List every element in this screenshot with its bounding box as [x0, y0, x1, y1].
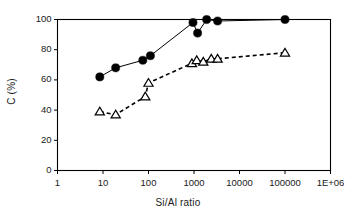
x-axis-title: Si/Al ratio	[0, 197, 356, 208]
y-tick-label-100: 100	[10, 13, 52, 24]
data-point-filled-circles-8	[281, 15, 289, 23]
data-point-open-triangles-9	[280, 48, 289, 56]
data-point-open-triangles-0	[95, 107, 104, 115]
y-tick-label-0: 0	[10, 164, 52, 175]
tick-marks	[54, 20, 331, 175]
data-point-filled-circles-2	[139, 56, 147, 64]
chart-container: C (%) Si/Al ratio 020406080100 110100100…	[0, 0, 356, 222]
data-point-filled-circles-7	[213, 17, 221, 25]
data-point-open-triangles-1	[111, 110, 120, 118]
data-point-open-triangles-2	[141, 92, 150, 100]
data-point-filled-circles-0	[96, 73, 104, 81]
x-tick-label-1: 1	[33, 177, 83, 188]
data-point-filled-circles-6	[203, 15, 211, 23]
data-point-open-triangles-3	[144, 79, 153, 87]
data-point-filled-circles-1	[112, 64, 120, 72]
y-tick-label-40: 40	[10, 104, 52, 115]
y-tick-label-20: 20	[10, 134, 52, 145]
y-tick-label-80: 80	[10, 43, 52, 54]
data-point-filled-circles-4	[189, 18, 197, 26]
x-tick-label-100: 100	[124, 177, 174, 188]
data-point-filled-circles-3	[146, 52, 154, 60]
data-point-filled-circles-5	[194, 29, 202, 37]
x-tick-label-10000: 10000	[215, 177, 265, 188]
y-tick-label-60: 60	[10, 73, 52, 84]
plot-area	[0, 0, 356, 222]
x-tick-label-1000: 1000	[169, 177, 219, 188]
series-markers	[95, 15, 289, 118]
x-tick-label-1000000: 1E+06	[306, 177, 356, 188]
x-tick-label-10: 10	[78, 177, 128, 188]
axis-frame	[58, 20, 331, 171]
series-line-filled-circles	[100, 20, 285, 77]
x-tick-label-100000: 100000	[260, 177, 310, 188]
